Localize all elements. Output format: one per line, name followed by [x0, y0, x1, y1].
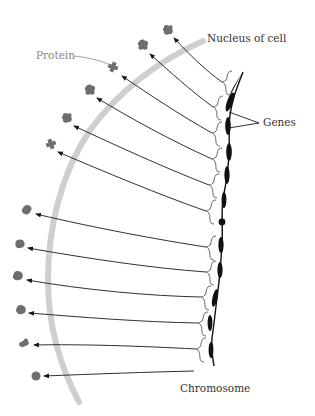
arrow-5 [74, 126, 209, 185]
nucleus-label: Nucleus of cell [207, 32, 286, 44]
protein-icon [45, 138, 58, 151]
protein-icon [32, 372, 41, 381]
protein-icon [163, 25, 173, 35]
gene-expression-diagram [0, 0, 315, 416]
genes-label: Genes [263, 116, 296, 128]
protein-icon [15, 240, 24, 249]
arrow-8 [28, 248, 206, 272]
protein-icon [62, 113, 72, 123]
protein-icon [16, 305, 26, 314]
arrow-7 [36, 214, 206, 247]
protein-icon [22, 205, 32, 214]
protein-icon [13, 271, 23, 280]
proteins [13, 25, 173, 381]
arrow-2 [150, 54, 213, 107]
arrow-4 [97, 98, 212, 159]
protein-icon [19, 339, 29, 347]
protein-icon [138, 40, 148, 50]
genes-leader-line-2 [229, 123, 259, 128]
protein-leader-line [73, 56, 110, 65]
protein-icon [107, 61, 120, 74]
arrow-9 [27, 280, 201, 297]
protein-icon [85, 85, 95, 95]
genes-leader-line-1 [229, 112, 259, 123]
arrow-6 [58, 152, 206, 211]
protein-label: Protein [36, 49, 75, 61]
chromosome [208, 72, 243, 366]
chromosome-label: Chromosome [180, 382, 250, 394]
